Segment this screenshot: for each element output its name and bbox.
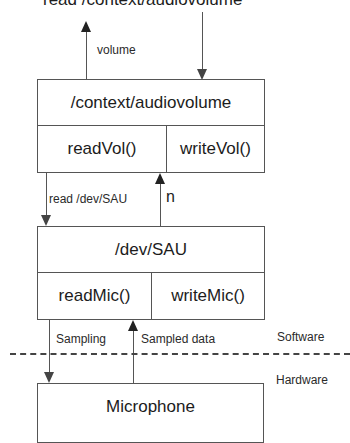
volume-label: volume bbox=[97, 43, 136, 57]
software-hardware-boundary bbox=[10, 353, 350, 355]
readvol-method: readVol() bbox=[38, 126, 166, 172]
hardware-label: Hardware bbox=[276, 373, 328, 387]
n-arrow-head-icon bbox=[155, 173, 165, 184]
microphone-title: Microphone bbox=[38, 384, 263, 430]
microphone-box: Microphone bbox=[37, 383, 264, 443]
dev-sau-box: /dev/SAU readMic() writeMic() bbox=[37, 226, 265, 320]
sampling-arrow-head-icon bbox=[44, 372, 54, 383]
writemic-method: writeMic() bbox=[152, 273, 264, 319]
context-box-title: /context/audiovolume bbox=[38, 80, 264, 125]
software-label: Software bbox=[277, 330, 324, 344]
read-dev-arrow-line bbox=[46, 173, 47, 216]
read-dev-label: read /dev/SAU bbox=[49, 192, 127, 206]
read-context-arrow-line bbox=[202, 12, 203, 70]
sampled-data-label: Sampled data bbox=[141, 332, 215, 346]
read-dev-arrow-head-icon bbox=[41, 215, 51, 226]
volume-arrow-head-icon bbox=[81, 21, 91, 32]
top-label: read /context/audiovolume bbox=[43, 0, 242, 10]
sampling-arrow-line bbox=[49, 320, 50, 373]
writevol-method: writeVol() bbox=[167, 126, 264, 172]
n-arrow-line bbox=[160, 183, 161, 226]
dev-box-title: /dev/SAU bbox=[38, 227, 264, 272]
sampled-data-arrow-line bbox=[133, 330, 134, 383]
sampling-label: Sampling bbox=[56, 332, 106, 346]
sampled-data-arrow-head-icon bbox=[128, 320, 138, 331]
context-audiovolume-box: /context/audiovolume readVol() writeVol(… bbox=[37, 79, 265, 173]
readmic-method: readMic() bbox=[38, 273, 151, 319]
n-label: n bbox=[166, 188, 175, 206]
volume-arrow-line bbox=[86, 28, 87, 80]
